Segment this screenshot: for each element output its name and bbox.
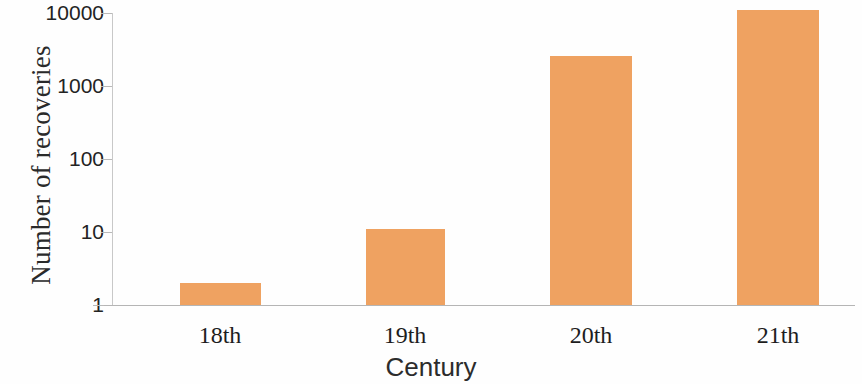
- plot-area: [112, 0, 855, 305]
- y-tick-label-10000: 10000: [18, 1, 104, 25]
- x-tick-label-18th: 18th: [150, 322, 290, 349]
- y-tick-label-10: 10: [18, 220, 104, 244]
- y-tick-mark-10: [101, 232, 112, 233]
- y-tick-label-1: 1: [18, 293, 104, 317]
- y-tick-mark-100: [101, 159, 112, 160]
- bar-chart: Number of recoveries 10000 1000 100 10 1…: [0, 0, 862, 384]
- x-axis-title: Century: [0, 352, 862, 383]
- y-tick-mark-1000: [101, 86, 112, 87]
- bar-20th: [550, 56, 632, 305]
- bar-21th: [737, 10, 819, 305]
- y-tick-mark-10000: [101, 13, 112, 14]
- x-tick-label-21th: 21th: [708, 322, 848, 349]
- y-axis-tick-labels: 10000 1000 100 10 1: [10, 0, 104, 384]
- x-tick-label-19th: 19th: [335, 322, 475, 349]
- x-axis-line: [104, 305, 855, 306]
- y-tick-label-1000: 1000: [18, 74, 104, 98]
- y-tick-label-100: 100: [18, 147, 104, 171]
- bar-18th: [180, 283, 261, 305]
- bar-19th: [366, 229, 445, 305]
- x-tick-label-20th: 20th: [521, 322, 661, 349]
